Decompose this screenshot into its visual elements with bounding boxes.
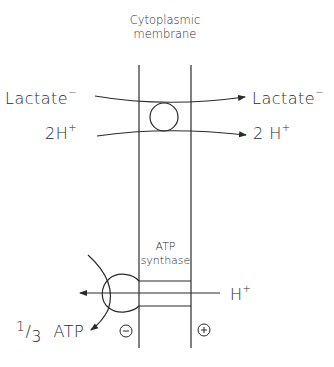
synthase-proton-label: H+	[230, 285, 251, 304]
proton-label-left: 2H+	[45, 124, 77, 143]
fraction-denominator: 3	[31, 327, 42, 346]
proton-label-right: 2 H+	[253, 124, 291, 143]
proton-symport-arrow	[97, 131, 246, 136]
fraction-numerator: 1	[16, 318, 25, 334]
title-line-1: Cytoplasmic	[120, 13, 210, 27]
membrane-title: Cytoplasmic membrane	[120, 13, 210, 41]
diagram-canvas	[0, 0, 334, 367]
lactate-label-right: Lactate−	[252, 89, 324, 108]
title-line-2: membrane	[120, 27, 210, 41]
atp-synthase-label: ATP synthase	[140, 240, 191, 268]
lactate-label-left: Lactate−	[5, 89, 77, 108]
synthase-line-2: synthase	[140, 254, 191, 268]
atp-product: ATP	[54, 322, 85, 341]
transporter-circle	[150, 103, 178, 131]
lactate-arrow	[95, 96, 245, 102]
atp-yield-label: 1/3 ATP	[16, 322, 84, 341]
synthase-line-1: ATP	[140, 240, 191, 254]
